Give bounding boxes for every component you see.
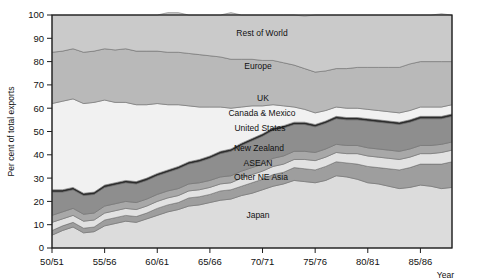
y-tick-label: 10: [33, 219, 44, 230]
series-label-japan: Japan: [246, 210, 269, 220]
x-tick-label: 80/81: [356, 256, 380, 267]
series-label-united-states: United States: [234, 123, 285, 133]
y-tick-label: 50: [33, 126, 44, 137]
y-axis-title: Per cent of total exports: [6, 87, 16, 177]
y-tick-label: 80: [33, 56, 44, 67]
y-axis: 0102030405060708090100: [28, 9, 52, 253]
stacked-area-chart: 0102030405060708090100Per cent of total …: [0, 0, 482, 280]
y-tick-label: 90: [33, 33, 44, 44]
x-tick-label: 70/71: [251, 256, 275, 267]
x-axis: 50/5155/5660/6165/6670/7175/7680/8185/86: [40, 248, 432, 267]
y-tick-label: 0: [39, 242, 44, 253]
y-tick-label: 100: [28, 9, 44, 20]
chart-canvas: 0102030405060708090100Per cent of total …: [0, 0, 482, 280]
y-tick-label: 60: [33, 103, 44, 114]
series-label-new-zealand: New Zealand: [234, 143, 284, 153]
x-tick-label: 75/76: [303, 256, 327, 267]
series-label-uk: UK: [257, 93, 269, 103]
y-tick-label: 70: [33, 79, 44, 90]
x-axis-title: Year: [437, 270, 454, 280]
series-label-canada-mexico: Canada & Mexico: [228, 108, 295, 118]
x-tick-label: 50/51: [40, 256, 64, 267]
y-tick-label: 40: [33, 149, 44, 160]
y-tick-label: 20: [33, 196, 44, 207]
series-label-other-ne-asia: Other NE Asia: [234, 172, 288, 182]
x-tick-label: 85/86: [409, 256, 433, 267]
series-label-europe: Europe: [244, 61, 272, 71]
y-tick-label: 30: [33, 173, 44, 184]
x-tick-label: 65/66: [198, 256, 222, 267]
x-tick-label: 55/56: [93, 256, 117, 267]
series-label-asean: ASEAN: [244, 158, 273, 168]
series-label-rest-of-world: Rest of World: [236, 28, 288, 38]
x-tick-label: 60/61: [145, 256, 169, 267]
